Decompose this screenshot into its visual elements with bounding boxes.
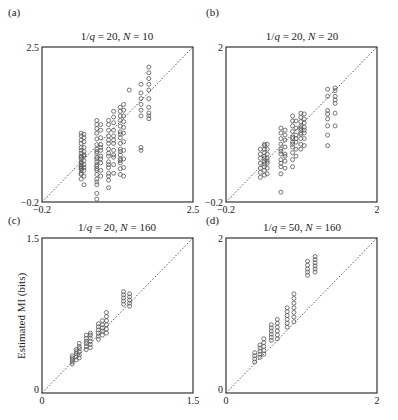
data-point bbox=[95, 172, 99, 176]
panel-a-label: (a) bbox=[8, 6, 21, 19]
data-point bbox=[292, 310, 296, 314]
panel-d-label: (d) bbox=[206, 214, 219, 227]
data-point bbox=[127, 88, 131, 92]
data-point bbox=[95, 118, 99, 122]
data-point bbox=[139, 91, 143, 95]
data-point bbox=[333, 111, 337, 115]
data-point bbox=[147, 105, 151, 109]
panel-a-xtick-min: −0.2 bbox=[33, 204, 51, 215]
data-point bbox=[99, 123, 103, 127]
data-point bbox=[139, 145, 143, 149]
data-point bbox=[122, 140, 126, 144]
data-point bbox=[139, 108, 143, 112]
data-point bbox=[95, 123, 99, 127]
panel-a-points bbox=[79, 65, 151, 201]
data-point bbox=[302, 117, 306, 121]
data-point bbox=[112, 115, 116, 119]
data-point bbox=[292, 306, 296, 310]
data-point bbox=[326, 124, 330, 128]
data-point bbox=[95, 191, 99, 195]
data-point bbox=[107, 186, 111, 190]
data-point bbox=[95, 127, 99, 131]
panel-c-ytick-min: 0 bbox=[34, 384, 39, 395]
data-point bbox=[275, 321, 279, 325]
data-point bbox=[112, 163, 116, 167]
data-point bbox=[147, 111, 151, 115]
data-point bbox=[107, 163, 111, 167]
data-point bbox=[285, 321, 289, 325]
data-point bbox=[285, 325, 289, 329]
panel-c-label: (c) bbox=[8, 214, 21, 227]
data-point bbox=[104, 323, 108, 327]
panel-c-xtick-min: 0 bbox=[40, 395, 45, 406]
panel-b-xtick-max: 2 bbox=[375, 204, 380, 215]
panel-c-xtick-max: 1.5 bbox=[187, 395, 200, 406]
data-point bbox=[104, 319, 108, 323]
data-point bbox=[326, 144, 330, 148]
data-point bbox=[275, 329, 279, 333]
data-point bbox=[326, 87, 330, 91]
data-point bbox=[285, 310, 289, 314]
data-point bbox=[275, 333, 279, 337]
data-point bbox=[258, 161, 262, 165]
data-point bbox=[279, 190, 283, 194]
data-point bbox=[95, 137, 99, 141]
data-point bbox=[118, 105, 122, 109]
data-point bbox=[279, 126, 283, 130]
data-point bbox=[99, 136, 103, 140]
data-point bbox=[262, 348, 266, 352]
data-point bbox=[104, 310, 108, 314]
data-point bbox=[279, 137, 283, 141]
data-point bbox=[95, 197, 99, 201]
data-point bbox=[82, 145, 86, 149]
y-axis-label: Estimated MI (bits) bbox=[15, 273, 28, 359]
data-point bbox=[147, 97, 151, 101]
data-point bbox=[279, 131, 283, 135]
panel-b-label: (b) bbox=[206, 6, 219, 19]
panel-d-identity-line bbox=[226, 238, 377, 393]
data-point bbox=[306, 263, 310, 267]
data-point bbox=[291, 114, 295, 118]
data-point bbox=[292, 315, 296, 319]
data-point bbox=[107, 147, 111, 151]
data-point bbox=[258, 170, 262, 174]
data-point bbox=[294, 126, 298, 130]
data-point bbox=[283, 128, 287, 132]
panel-b: (b) 1/q = 20, N = 20 2 −0.2 −0.2 2 bbox=[205, 6, 380, 215]
data-point bbox=[112, 171, 116, 175]
data-point bbox=[147, 71, 151, 75]
data-point bbox=[283, 159, 287, 163]
panel-a-identity-line bbox=[42, 47, 193, 202]
data-point bbox=[112, 148, 116, 152]
data-point bbox=[99, 157, 103, 161]
data-point bbox=[107, 151, 111, 155]
data-point bbox=[306, 259, 310, 263]
panel-c-identity-line bbox=[42, 238, 193, 393]
data-point bbox=[294, 154, 298, 158]
data-point bbox=[100, 333, 104, 337]
data-point bbox=[262, 337, 266, 341]
data-point bbox=[283, 166, 287, 170]
data-point bbox=[107, 178, 111, 182]
panel-a: (a) 1/q = 20, N = 10 2.5 −0.2 −0.2 2.5 bbox=[8, 6, 199, 215]
data-point bbox=[112, 121, 116, 125]
panel-c-title: 1/q = 20, N = 160 bbox=[78, 221, 156, 233]
data-point bbox=[122, 102, 126, 106]
data-point bbox=[294, 147, 298, 151]
data-point bbox=[139, 82, 143, 86]
panel-d-title: 1/q = 50, N = 160 bbox=[263, 221, 341, 233]
data-point bbox=[285, 314, 289, 318]
data-point bbox=[104, 315, 108, 319]
data-point bbox=[326, 133, 330, 137]
data-point bbox=[95, 131, 99, 135]
data-point bbox=[107, 118, 111, 122]
data-point bbox=[275, 325, 279, 329]
data-point bbox=[107, 128, 111, 132]
data-point bbox=[265, 147, 269, 151]
data-point bbox=[299, 147, 303, 151]
data-point bbox=[139, 114, 143, 118]
panel-b-title: 1/q = 20, N = 20 bbox=[266, 30, 339, 42]
panel-b-xtick-min: −0.2 bbox=[217, 204, 235, 215]
data-point bbox=[112, 134, 116, 138]
data-point bbox=[95, 180, 99, 184]
